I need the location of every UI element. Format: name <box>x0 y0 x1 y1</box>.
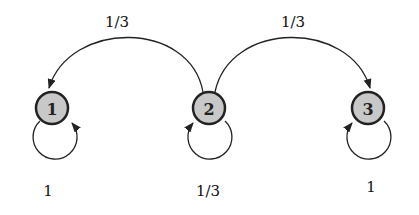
markov-chain-diagram: 1 2 3 1/3 1/3 1 1/3 1 <box>0 0 419 215</box>
node-1-label: 1 <box>46 100 57 119</box>
self-loop-3 <box>347 121 391 159</box>
self-loop-2-label: 1/3 <box>196 182 220 200</box>
edge-2-to-3 <box>215 37 370 92</box>
node-3-label: 3 <box>362 100 373 119</box>
self-loop-1-label: 1 <box>43 182 53 200</box>
self-loop-2 <box>188 121 232 159</box>
edge-2-to-1-label: 1/3 <box>105 13 129 31</box>
self-loop-3-label: 1 <box>366 178 376 196</box>
edge-2-to-3-label: 1/3 <box>281 13 305 31</box>
node-2-label: 2 <box>203 100 214 119</box>
self-loop-1 <box>33 121 77 159</box>
edge-2-to-1 <box>49 37 203 92</box>
